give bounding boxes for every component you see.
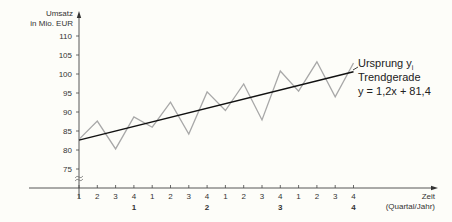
x-tick-label: 1	[296, 192, 301, 201]
y-axis-arrow-icon	[77, 11, 81, 18]
x-axis-arrow-icon	[431, 186, 438, 190]
x-tick-label: 1	[150, 192, 155, 201]
x-year-label: 2	[205, 203, 210, 212]
legend-original-name: Ursprung y	[358, 57, 412, 69]
y-tick-label: 95	[63, 89, 72, 98]
y-tick-label: 90	[63, 108, 72, 117]
y-tick-label: 105	[59, 51, 73, 60]
x-tick-label: 4	[351, 192, 356, 201]
legend-original-label: Ursprung yi	[358, 57, 414, 71]
x-tick-label: 2	[241, 192, 246, 201]
x-year-label: 1	[132, 203, 137, 212]
y-axis-title-line-1: Umsatz	[46, 9, 73, 18]
y-ticks: 7580859095100105110	[59, 32, 79, 174]
x-tick-label: 4	[132, 192, 137, 201]
x-tick-label: 3	[333, 192, 338, 201]
x-tick-label: 3	[187, 192, 192, 201]
chart: 7580859095100105110 12341234123412341234…	[0, 0, 452, 222]
x-tick-label: 2	[315, 192, 320, 201]
x-axis-title-line-1: Zeit	[422, 192, 436, 201]
x-year-label: 3	[278, 203, 283, 212]
legend-trend-label: Trendgerade	[358, 71, 421, 83]
y-tick-label: 75	[63, 165, 72, 174]
x-tick-label: 1	[77, 192, 82, 201]
x-tick-label: 1	[223, 192, 228, 201]
y-tick-label: 85	[63, 127, 72, 136]
legend-original-subscript: i	[412, 64, 414, 71]
y-axis-title-line-2: in Mio. EUR	[30, 19, 73, 28]
y-tick-label: 110	[59, 32, 72, 41]
axes	[29, 11, 438, 198]
x-year-label: 4	[351, 203, 356, 212]
y-tick-label: 100	[59, 70, 73, 79]
x-axis-title-line-2: (Quartal/Jahr)	[386, 202, 436, 211]
x-tick-label: 3	[260, 192, 265, 201]
y-tick-label: 80	[63, 146, 72, 155]
axis-titles: Umsatz in Mio. EUR Zeit (Quartal/Jahr)	[30, 9, 435, 211]
x-tick-label: 4	[205, 192, 210, 201]
legend-trend-equation: y = 1,2x + 81,4	[358, 85, 431, 97]
x-tick-label: 2	[95, 192, 100, 201]
x-tick-label: 3	[113, 192, 118, 201]
series-trend	[79, 72, 354, 140]
x-tick-label: 4	[278, 192, 283, 201]
legend: Ursprung yi Trendgerade y = 1,2x + 81,4	[353, 57, 431, 97]
x-ticks: 12341234123412341234	[77, 185, 357, 212]
x-tick-label: 2	[168, 192, 173, 201]
trend-line	[79, 72, 354, 140]
